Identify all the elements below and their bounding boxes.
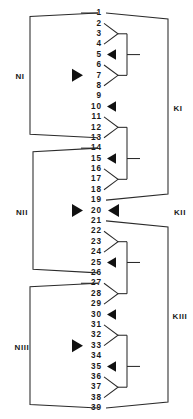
node-number: 30: [91, 310, 102, 319]
subgroup-converge: [104, 23, 118, 44]
left-group-labels: NINIINIII: [15, 72, 30, 351]
left-group-box: [33, 148, 98, 273]
node-number: 38: [91, 393, 102, 402]
node-number: 15: [91, 154, 102, 163]
node-number: 28: [91, 289, 102, 298]
node-number: 16: [91, 164, 102, 173]
node-number: 24: [91, 247, 102, 256]
right-group-label: KI: [173, 104, 182, 113]
right-output-marker: [107, 101, 116, 112]
left-group-label: NII: [16, 208, 28, 217]
node-number: 8: [97, 81, 102, 90]
right-group-label: KIII: [173, 312, 188, 321]
right-output-marker: [107, 361, 116, 372]
node-number: 4: [97, 39, 102, 48]
node-number: 22: [91, 226, 102, 235]
subgroup-converge: [104, 231, 118, 252]
node-number: 12: [91, 123, 102, 132]
left-group-label: NIII: [15, 343, 30, 352]
node-number: 5: [97, 50, 102, 59]
node-number: 19: [91, 195, 102, 204]
right-output-marker: [107, 153, 116, 164]
right-output-marker: [107, 49, 116, 60]
left-group-label: NI: [15, 72, 24, 81]
node-number-group: 1234567891011121314151617181920212223242…: [91, 8, 102, 412]
node-number: 31: [91, 320, 102, 329]
node-number: 11: [92, 112, 102, 121]
subgroup-converge: [104, 117, 118, 138]
node-number: 25: [91, 258, 102, 267]
node-number: 21: [91, 216, 102, 225]
node-number: 33: [91, 341, 102, 350]
left-group-box: [30, 13, 98, 138]
node-number: 32: [91, 330, 102, 339]
node-number: 37: [91, 382, 102, 391]
node-number: 9: [97, 91, 102, 100]
right-group-label: KII: [174, 208, 186, 217]
left-input-marker: [72, 69, 83, 82]
left-group-box: [30, 283, 98, 408]
node-number: 2: [97, 19, 102, 28]
node-number: 18: [91, 185, 102, 194]
node-number: 23: [91, 237, 102, 246]
node-number: 17: [91, 174, 102, 183]
node-number: 3: [97, 29, 102, 38]
node-number: 7: [97, 71, 102, 80]
node-number: 20: [91, 206, 102, 215]
subgroup-converge: [104, 325, 118, 346]
right-group-labels: KIKIIKIII: [173, 104, 188, 321]
right-output-marker: [107, 257, 116, 268]
subgroup-converge: [104, 377, 118, 398]
left-input-marker: [72, 339, 83, 352]
subgroup-converge: [104, 283, 118, 304]
right-output-marker: [108, 204, 119, 217]
left-input-marker: [72, 204, 83, 217]
subgroup-converge: [104, 169, 118, 190]
diagram-canvas: 1234567891011121314151617181920212223242…: [0, 0, 193, 419]
node-number: 29: [91, 299, 102, 308]
node-number: 34: [91, 351, 102, 360]
right-output-marker: [107, 309, 116, 320]
node-number: 10: [91, 102, 102, 111]
network-diagram-svg: 1234567891011121314151617181920212223242…: [0, 0, 193, 419]
subgroup-converge: [104, 65, 118, 86]
left-group-boxes: [30, 13, 98, 408]
node-number: 6: [97, 60, 102, 69]
node-number: 36: [91, 372, 102, 381]
node-number: 35: [91, 362, 102, 371]
